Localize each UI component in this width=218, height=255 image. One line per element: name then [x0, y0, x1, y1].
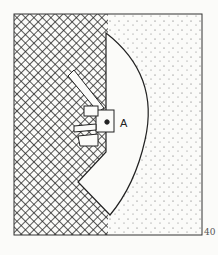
page-number: 40	[204, 227, 215, 237]
illustration: A	[0, 0, 218, 255]
label-a: A	[120, 117, 128, 129]
